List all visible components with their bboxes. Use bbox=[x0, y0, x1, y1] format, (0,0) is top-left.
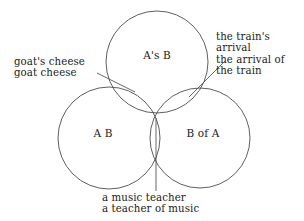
leader-line-left bbox=[97, 73, 135, 92]
circle-top bbox=[106, 11, 208, 113]
annotation-trains-arrival: the train's arrival the arrival of the t… bbox=[216, 31, 285, 77]
circle-label-top: A's B bbox=[122, 50, 192, 61]
annotation-music-teacher: a music teacher a teacher of music bbox=[102, 192, 199, 215]
circle-label-right: B of A bbox=[168, 128, 238, 139]
annotation-goats-cheese: goat's cheese goat cheese bbox=[14, 56, 85, 79]
diagram-canvas: A's B A B B of A goat's cheese goat chee… bbox=[0, 0, 304, 221]
circle-label-left: A B bbox=[73, 128, 133, 139]
